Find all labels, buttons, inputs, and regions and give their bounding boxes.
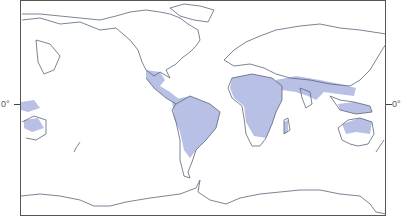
equator-label-left: 0° — [1, 99, 10, 109]
equator-tick-left — [14, 104, 20, 105]
equator-label-right: 0° — [392, 99, 401, 109]
map-svg — [20, 0, 386, 216]
world-map — [20, 0, 386, 216]
